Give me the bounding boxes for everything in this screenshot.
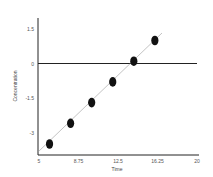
data-point <box>109 77 116 87</box>
x-tick-labels: 58.7512.516.2520 <box>38 158 200 164</box>
x-tick-label: 16.25 <box>151 158 164 164</box>
y-tick-label: 0 <box>31 61 34 67</box>
fit-line <box>38 33 162 152</box>
y-tick-label: -1.5 <box>25 95 34 101</box>
data-point <box>46 139 53 149</box>
x-tick-label: 20 <box>194 158 200 164</box>
y-tick-labels: 1.50-1.5-3 <box>25 26 34 136</box>
data-point <box>151 36 158 46</box>
plot-area: 58.7512.516.2520 1.50-1.5-3 Time Concent… <box>12 18 200 172</box>
x-axis-label: Time <box>112 166 123 172</box>
y-axis-label: Concentration <box>12 70 18 101</box>
x-tick-label: 12.5 <box>113 158 123 164</box>
y-tick-label: 1.5 <box>27 26 34 32</box>
y-tick-label: -3 <box>30 130 35 136</box>
data-point <box>130 56 137 66</box>
x-tick-label: 5 <box>38 158 41 164</box>
x-tick-label: 8.75 <box>74 158 84 164</box>
data-point <box>88 98 95 108</box>
data-point <box>67 119 74 129</box>
chart: 58.7512.516.2520 1.50-1.5-3 Time Concent… <box>0 0 213 177</box>
